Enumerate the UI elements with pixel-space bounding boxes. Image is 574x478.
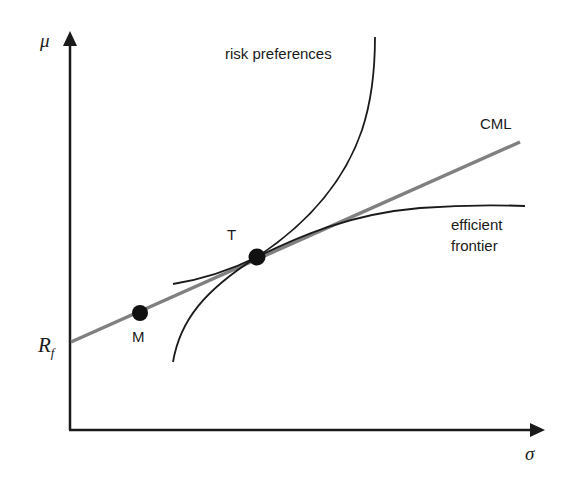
market-portfolio-point <box>132 305 148 321</box>
risk-free-rate-subscript: f <box>51 345 55 360</box>
efficient-frontier-label-line1: efficient <box>451 216 502 233</box>
y-axis-arrow-icon <box>63 31 77 46</box>
risk-free-rate-main: R <box>38 333 51 357</box>
efficient-frontier-label-line2: frontier <box>451 237 498 254</box>
x-axis-label: σ <box>525 443 534 465</box>
y-axis-label: μ <box>40 30 50 52</box>
cml-label: CML <box>480 115 512 132</box>
risk-free-rate-label: Rf <box>38 333 54 361</box>
risk-preferences-curve <box>173 37 375 362</box>
market-point-label: M <box>132 328 145 345</box>
tangency-portfolio-point <box>249 249 266 266</box>
x-axis-arrow-icon <box>530 423 545 437</box>
tangency-point-label: T <box>227 226 236 243</box>
risk-preferences-label: risk preferences <box>225 45 332 62</box>
